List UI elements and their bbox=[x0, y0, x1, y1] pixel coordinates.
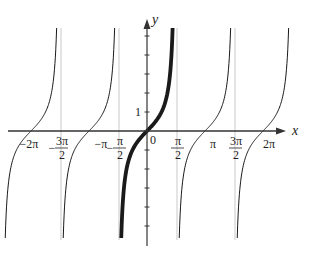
y-axis-label: y bbox=[150, 12, 159, 27]
x-axis-arrow bbox=[276, 128, 286, 135]
tan-branch bbox=[237, 28, 288, 238]
tick-numerator: π bbox=[175, 134, 181, 148]
tick-numerator: 3π bbox=[56, 134, 68, 148]
tan-branch bbox=[63, 28, 114, 238]
x-tick-label: 2π bbox=[263, 137, 275, 151]
tick-denominator: 2 bbox=[117, 148, 123, 162]
tangent-graph: x y 0 1 −2π3π2−−ππ2−π2π3π22π bbox=[0, 0, 311, 256]
x-tick-label: 3π2− bbox=[49, 134, 68, 162]
tick-text: −2π bbox=[20, 137, 39, 151]
x-axis-label: x bbox=[291, 123, 299, 138]
x-tick-label: π bbox=[210, 137, 216, 151]
y-tick-label-1: 1 bbox=[135, 105, 141, 119]
asymptotes bbox=[61, 28, 235, 240]
x-tick-label: π2− bbox=[107, 134, 126, 162]
tick-sign: − bbox=[107, 141, 114, 155]
x-tick-label: −2π bbox=[20, 137, 39, 151]
tick-text: 2π bbox=[263, 137, 275, 151]
x-tick-label: π2 bbox=[171, 134, 184, 162]
tick-sign: − bbox=[49, 141, 56, 155]
tan-branch bbox=[179, 28, 230, 238]
x-tick-label: −π bbox=[95, 137, 108, 151]
tick-text: π bbox=[210, 137, 216, 151]
y-axis-arrow bbox=[144, 19, 151, 29]
tan-branch bbox=[5, 28, 56, 238]
axes bbox=[8, 19, 286, 246]
tick-numerator: π bbox=[117, 134, 123, 148]
origin-label: 0 bbox=[150, 133, 156, 147]
tick-denominator: 2 bbox=[175, 148, 181, 162]
tick-text: −π bbox=[95, 137, 108, 151]
x-tick-label: 3π2 bbox=[229, 134, 242, 162]
tick-denominator: 2 bbox=[59, 148, 65, 162]
tick-numerator: 3π bbox=[230, 134, 242, 148]
tick-denominator: 2 bbox=[233, 148, 239, 162]
